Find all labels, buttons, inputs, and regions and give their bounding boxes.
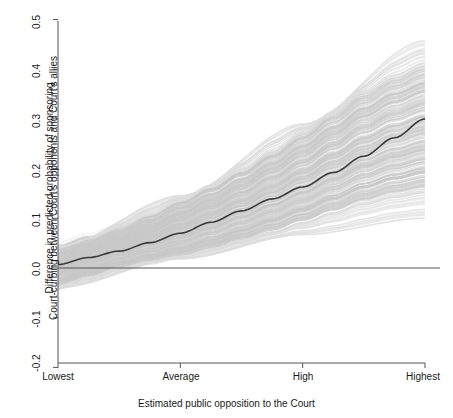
chart-figure: 0.5 0.4 0.3 0.2 0.1 0.0 -0.1 -0.2 Differ… [0,0,453,418]
y-tick-label-0-5: 0.5 [32,7,42,37]
y-tick-label-0-2: 0.2 [32,156,42,186]
y-tick-label-neg-0-1: -0.1 [32,302,42,336]
x-tick-label-highest: Highest [393,372,453,382]
x-tick-label-high: High [273,372,333,382]
y-tick-label-0-4: 0.4 [32,56,42,86]
x-axis-title: Estimated public opposition to the Court [0,399,453,409]
x-tick-label-lowest: Lowest [28,372,88,382]
chart-canvas [0,0,453,418]
x-tick-label-average: Average [151,372,211,382]
y-tick-label-0-3: 0.3 [32,106,42,136]
y-tick-label-0-0: 0.0 [32,254,42,284]
y-axis-title-line-2: Court-curbing between Court's opponents … [49,38,59,338]
y-tick-label-0-1: 0.1 [32,205,42,235]
